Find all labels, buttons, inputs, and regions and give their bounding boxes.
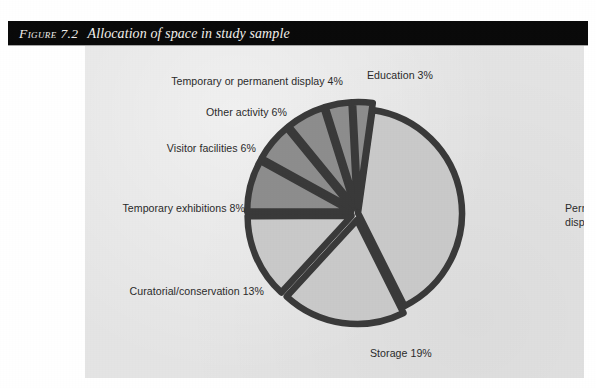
figure-number-label: Figure 7.2 [19, 26, 79, 41]
pie-slice-group [247, 102, 462, 324]
pie-slice-label: Temporary or permanent display 4% [171, 75, 343, 87]
pie-slice-label: Other activity 6% [206, 106, 287, 118]
pie-slice-label: Storage 19% [370, 347, 432, 359]
figure-title-banner: Figure 7.2Allocation of space in study s… [8, 21, 588, 45]
figure-title-label: Allocation of space in study sample [88, 26, 290, 41]
pie-slice-label: Visitor facilities 6% [167, 142, 257, 154]
pie-chart: Permanentdisplays 40%Storage 19%Curatori… [85, 46, 584, 378]
chart-panel: Permanentdisplays 40%Storage 19%Curatori… [85, 46, 584, 378]
pie-slice-label: Education 3% [367, 69, 434, 81]
figure-title-text: Figure 7.2Allocation of space in study s… [19, 25, 290, 41]
pie-slice-label: Permanentdisplays 40% [565, 202, 584, 228]
figure-root: Figure 7.2Allocation of space in study s… [0, 0, 596, 388]
pie-slice-label: Curatorial/conservation 13% [130, 285, 265, 297]
pie-slice-label: Temporary exhibitions 8% [123, 202, 246, 214]
